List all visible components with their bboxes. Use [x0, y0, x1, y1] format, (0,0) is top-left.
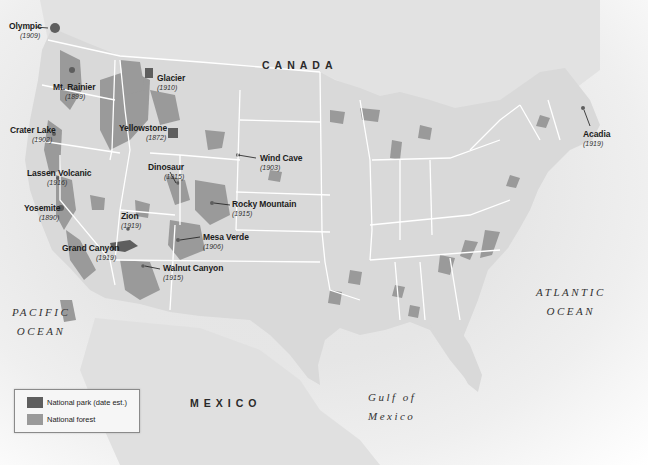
park-year-zion: (1919) [121, 222, 141, 230]
legend-item-national-park: National park (date est.) [27, 397, 127, 408]
park-year-yosemite: (1890) [39, 214, 59, 222]
park-label-acadia: Acadia [583, 130, 610, 139]
legend-label: National forest [47, 415, 95, 424]
park-label-zion: Zion [121, 212, 139, 221]
ocean-label-line1: Gulf of [368, 388, 416, 407]
ocean-label-line2: OCEAN [536, 302, 606, 321]
legend-label: National park (date est.) [47, 398, 127, 407]
park-year-grand-canyon: (1919) [96, 254, 116, 262]
park-year-glacier: (1910) [157, 84, 177, 92]
park-label-olympic: Olympic [9, 22, 42, 31]
country-label-canada: CANADA [262, 59, 338, 71]
park-label-grand-canyon: Grand Canyon [62, 244, 119, 253]
park-year-olympic: (1909) [20, 32, 40, 40]
park-year-mt-rainier: (1899) [65, 93, 85, 101]
park-year-rocky-mountain: (1915) [232, 210, 252, 218]
park-year-crater-lake: (1902) [32, 136, 52, 144]
park-year-walnut-canyon: (1915) [163, 274, 183, 282]
ocean-label-line1: ATLANTIC [536, 283, 606, 302]
park-year-acadia: (1919) [583, 140, 603, 148]
ocean-label-line2: OCEAN [12, 322, 70, 341]
park-year-wind-cave: (1903) [260, 164, 280, 172]
ocean-label-line1: PACIFIC [12, 303, 70, 322]
park-label-rocky-mountain: Rocky Mountain [232, 200, 296, 209]
park-year-mesa-verde: (1906) [203, 243, 223, 251]
us-national-parks-map: CANADA MEXICO PACIFIC OCEAN ATLANTIC OCE… [0, 0, 648, 465]
national-park-swatch-icon [27, 397, 43, 408]
park-year-dinosaur: (1915) [164, 173, 184, 181]
park-label-mesa-verde: Mesa Verde [203, 233, 249, 242]
park-year-yellowstone: (1872) [146, 134, 166, 142]
ocean-label-line2: Mexico [368, 407, 416, 426]
park-label-glacier: Glacier [157, 74, 185, 83]
park-label-lassen-volcanic: Lassen Volcanic [27, 169, 91, 178]
national-forest-swatch-icon [27, 414, 43, 425]
ocean-label-gulf-of-mexico: Gulf of Mexico [368, 388, 416, 426]
park-label-walnut-canyon: Walnut Canyon [163, 264, 223, 273]
park-label-yellowstone: Yellowstone [119, 124, 167, 133]
ocean-label-atlantic: ATLANTIC OCEAN [536, 283, 606, 321]
park-label-dinosaur: Dinosaur [148, 163, 184, 172]
park-label-wind-cave: Wind Cave [260, 154, 302, 163]
legend-item-national-forest: National forest [27, 414, 95, 425]
country-label-mexico: MEXICO [190, 397, 261, 409]
park-year-lassen-volcanic: (1916) [47, 179, 67, 187]
park-label-crater-lake: Crater Lake [10, 126, 56, 135]
park-label-yosemite: Yosemite [24, 204, 60, 213]
ocean-label-pacific: PACIFIC OCEAN [12, 303, 70, 341]
park-label-mt-rainier: Mt. Rainier [53, 83, 95, 92]
map-legend: National park (date est.) National fores… [14, 389, 140, 433]
florida [430, 325, 482, 392]
